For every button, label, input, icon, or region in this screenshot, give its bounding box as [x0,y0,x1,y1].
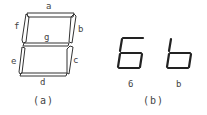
segment-g [23,43,69,46]
diagram-canvas [0,0,207,115]
label-digit-b: b [176,80,181,89]
caption-b: (b) [143,96,164,106]
label-segment-e: e [11,57,16,66]
label-digit-6: 6 [128,80,133,89]
seven-segment-outline [19,13,76,76]
label-segment-b: b [78,25,83,34]
label-segment-f: f [14,22,19,31]
segment-d [20,73,67,76]
segment-a [27,13,74,17]
digit-6 [118,38,143,68]
digit-b [167,39,191,68]
label-segment-c: c [73,56,78,65]
segment-b [69,14,76,43]
label-segment-g: g [44,33,49,42]
label-segment-a: a [46,2,51,11]
segment-e [19,47,25,74]
segment-f [22,14,29,43]
caption-a: (a) [33,96,54,106]
label-segment-d: d [40,78,45,87]
